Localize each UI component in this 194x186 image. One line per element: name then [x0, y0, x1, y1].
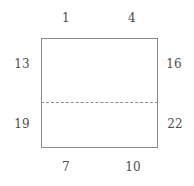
- diagram-canvas: 1 4 13 16 19 22 7 10: [0, 0, 194, 186]
- label-top-right: 4: [128, 12, 136, 24]
- rectangle-outline: [41, 38, 158, 148]
- label-right-lower: 22: [167, 118, 183, 130]
- label-bottom-right: 10: [125, 161, 141, 173]
- label-top-left: 1: [62, 12, 70, 24]
- label-bottom-left: 7: [62, 161, 70, 173]
- label-right-upper: 16: [166, 58, 182, 70]
- horizontal-dashed-divider: [41, 102, 158, 103]
- label-left-upper: 13: [14, 58, 30, 70]
- label-left-lower: 19: [14, 118, 30, 130]
